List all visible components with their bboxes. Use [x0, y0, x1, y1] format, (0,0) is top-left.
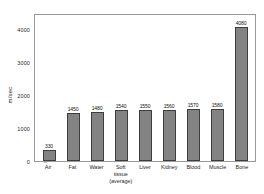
x-axis-tick-labels: AirFatWaterSoft tissue(average)LiverKidn… — [34, 164, 256, 192]
x-axis-label-line1: Fat — [68, 164, 76, 170]
bar-rect[interactable] — [67, 113, 80, 161]
bar-value-label: 1480 — [92, 106, 103, 111]
bar-value-label: 1450 — [68, 107, 79, 112]
bar-slot-kidney[interactable]: 1560 — [157, 15, 181, 161]
bar-rect[interactable] — [211, 109, 224, 161]
x-axis-label-soft-tissue-average: Soft tissue(average) — [109, 164, 133, 192]
x-axis-label-line1: Water — [89, 164, 103, 170]
y-axis-tick-1000: 1000 — [17, 126, 30, 132]
x-axis-label-line1: Kidney — [161, 164, 178, 170]
bar-value-label: 4080 — [236, 21, 247, 26]
x-axis-label-line1: Liver — [139, 164, 151, 170]
x-axis-label-line1: Blood — [187, 164, 201, 170]
bar-slot-air[interactable]: 330 — [37, 15, 61, 161]
bar-slot-blood[interactable]: 1570 — [181, 15, 205, 161]
x-axis-label-kidney: Kidney — [157, 164, 181, 192]
y-axis-tick-2000: 2000 — [17, 93, 30, 99]
bar-slot-bone[interactable]: 4080 — [229, 15, 253, 161]
plot-area: 33014501480154015501560157015804080 — [34, 14, 256, 162]
bar-value-label: 1570 — [188, 103, 199, 108]
bar-chart-figure: m/sec 01000200030004000 3301450148015401… — [0, 0, 264, 194]
bar-rect[interactable] — [43, 150, 56, 161]
x-axis-label-line1: Air — [45, 164, 52, 170]
bar-rect[interactable] — [139, 110, 152, 161]
x-axis-label-air: Air — [36, 164, 60, 192]
bar-series: 33014501480154015501560157015804080 — [35, 15, 255, 161]
bar-value-label: 1550 — [140, 104, 151, 109]
bar-slot-liver[interactable]: 1550 — [133, 15, 157, 161]
x-axis-label-blood: Blood — [181, 164, 205, 192]
x-axis-label-muscle: Muscle — [206, 164, 230, 192]
y-axis-tick-4000: 4000 — [17, 27, 30, 33]
y-axis-tick-3000: 3000 — [17, 60, 30, 66]
bar-slot-muscle[interactable]: 1580 — [205, 15, 229, 161]
y-axis-tick-0: 0 — [27, 159, 30, 165]
x-axis-label-line2: (average) — [109, 178, 133, 185]
bar-value-label: 1580 — [212, 103, 223, 108]
bar-rect[interactable] — [115, 110, 128, 161]
x-axis-label-line1: Soft tissue — [114, 164, 128, 177]
bar-value-label: 330 — [45, 144, 53, 149]
bar-rect[interactable] — [163, 110, 176, 161]
x-axis-label-bone: Bone — [230, 164, 254, 192]
y-axis-tick-labels: 01000200030004000 — [12, 14, 32, 162]
bar-value-label: 1540 — [116, 104, 127, 109]
bar-slot-fat[interactable]: 1450 — [61, 15, 85, 161]
bar-rect[interactable] — [91, 112, 104, 161]
bar-value-label: 1560 — [164, 104, 175, 109]
x-axis-label-water: Water — [84, 164, 108, 192]
bar-rect[interactable] — [235, 27, 248, 161]
bar-slot-soft-tissue-average[interactable]: 1540 — [109, 15, 133, 161]
x-axis-label-line1: Muscle — [209, 164, 226, 170]
x-axis-label-fat: Fat — [60, 164, 84, 192]
x-axis-label-liver: Liver — [133, 164, 157, 192]
bar-slot-water[interactable]: 1480 — [85, 15, 109, 161]
x-axis-label-line1: Bone — [236, 164, 249, 170]
bar-rect[interactable] — [187, 109, 200, 161]
